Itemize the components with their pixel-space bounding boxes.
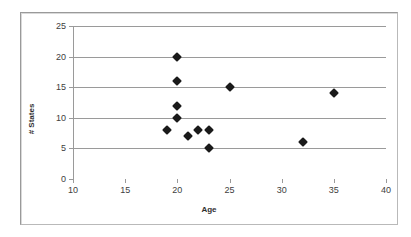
y-axis-line <box>73 26 74 179</box>
y-tick-label-5: 5 <box>61 143 66 153</box>
gridline-y-25 <box>73 26 386 27</box>
data-point <box>193 125 203 135</box>
gridline-y-20 <box>73 57 386 58</box>
x-tick-label-20: 20 <box>172 185 182 195</box>
data-point <box>172 52 182 62</box>
x-tick-label-35: 35 <box>329 185 339 195</box>
gridline-y-5 <box>73 148 386 149</box>
y-tick-10 <box>69 118 73 119</box>
chart-frame: # States 0510152025 10152025303540 Age <box>20 12 398 225</box>
y-tick-15 <box>69 87 73 88</box>
x-tick-label-30: 30 <box>277 185 287 195</box>
data-point <box>172 113 182 123</box>
x-tick-35 <box>334 179 335 183</box>
y-tick-label-25: 25 <box>56 21 66 31</box>
x-tick-label-15: 15 <box>120 185 130 195</box>
data-point <box>172 101 182 111</box>
data-point <box>225 82 235 92</box>
y-tick-5 <box>69 148 73 149</box>
y-tick-25 <box>69 26 73 27</box>
x-tick-40 <box>386 179 387 183</box>
data-point <box>329 88 339 98</box>
y-tick-20 <box>69 57 73 58</box>
data-point <box>183 131 193 141</box>
x-tick-label-10: 10 <box>68 185 78 195</box>
data-point <box>204 125 214 135</box>
gridline-y-10 <box>73 118 386 119</box>
y-axis-title: # States <box>27 103 36 134</box>
plot-area: 0510152025 10152025303540 <box>73 26 386 179</box>
y-tick-label-15: 15 <box>56 82 66 92</box>
x-tick-label-40: 40 <box>381 185 391 195</box>
x-tick-15 <box>125 179 126 183</box>
data-point <box>298 137 308 147</box>
x-tick-label-25: 25 <box>224 185 234 195</box>
y-tick-label-10: 10 <box>56 113 66 123</box>
x-tick-10 <box>73 179 74 183</box>
x-axis-title: Age <box>201 205 216 214</box>
x-tick-20 <box>177 179 178 183</box>
data-point <box>204 143 214 153</box>
y-tick-label-0: 0 <box>61 174 66 184</box>
data-point <box>162 125 172 135</box>
x-tick-25 <box>230 179 231 183</box>
x-tick-30 <box>282 179 283 183</box>
y-tick-label-20: 20 <box>56 52 66 62</box>
data-point <box>172 76 182 86</box>
